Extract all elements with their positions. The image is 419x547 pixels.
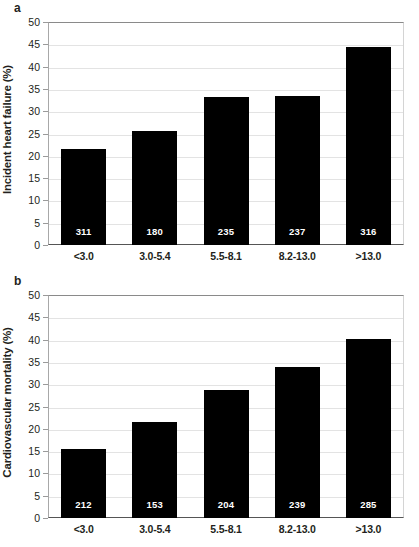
y-axis-tick-label: 25 — [6, 129, 40, 139]
bar: 235 — [204, 97, 249, 245]
bar-count-label: 316 — [346, 226, 391, 237]
y-axis-tick-label: 15 — [6, 173, 40, 183]
x-axis-category-label: >13.0 — [333, 250, 403, 262]
bar-count-label: 237 — [275, 226, 320, 237]
x-axis-category-label: 3.0-5.4 — [120, 523, 190, 535]
y-axis-tick-label: 50 — [6, 17, 40, 27]
y-axis-tick-mark — [43, 245, 48, 246]
y-axis-tick-label: 30 — [6, 106, 40, 116]
bar-count-label: 180 — [132, 226, 177, 237]
bar: 239 — [275, 367, 320, 518]
y-axis-tick-label: 10 — [6, 468, 40, 478]
bar: 237 — [275, 96, 320, 245]
bar-count-label: 235 — [204, 226, 249, 237]
bar-series-a: 311180235237316 — [48, 22, 404, 245]
bar: 212 — [61, 449, 106, 518]
bar: 204 — [204, 390, 249, 518]
x-axis-labels-a: <3.03.0-5.45.5-8.18.2-13.0>13.0 — [48, 250, 404, 268]
y-axis-tick-label: 50 — [6, 290, 40, 300]
chart-panel-a: a Incident heart failure (%) 05101520253… — [0, 0, 419, 273]
y-axis-tick-label: 45 — [6, 312, 40, 322]
y-axis-tick-label: 15 — [6, 446, 40, 456]
bar: 311 — [61, 149, 106, 245]
x-axis-labels-b: <3.03.0-5.45.5-8.18.2-13.0>13.0 — [48, 523, 404, 541]
y-axis-tick-label: 30 — [6, 379, 40, 389]
bar-count-label: 285 — [346, 499, 391, 510]
x-axis-category-label: 5.5-8.1 — [191, 523, 261, 535]
x-axis-category-label: >13.0 — [333, 523, 403, 535]
y-axis-tick-label: 35 — [6, 357, 40, 367]
y-axis-tick-label: 35 — [6, 84, 40, 94]
bar: 316 — [346, 47, 391, 245]
x-axis-category-label: 5.5-8.1 — [191, 250, 261, 262]
bar-count-label: 212 — [61, 499, 106, 510]
y-axis-tick-label: 10 — [6, 195, 40, 205]
x-axis-category-label: 8.2-13.0 — [262, 250, 332, 262]
y-axis-tick-label: 20 — [6, 151, 40, 161]
bar: 285 — [346, 339, 391, 518]
y-axis-tick-label: 25 — [6, 402, 40, 412]
y-axis-tick-label: 40 — [6, 335, 40, 345]
chart-panel-b: b Cardiovascular mortality (%) 051015202… — [0, 273, 419, 546]
bar-count-label: 311 — [61, 226, 106, 237]
x-axis-category-label: <3.0 — [49, 523, 119, 535]
y-axis-tick-label: 20 — [6, 424, 40, 434]
bar-count-label: 204 — [204, 499, 249, 510]
y-axis-tick-mark — [43, 518, 48, 519]
y-axis-tick-label: 5 — [6, 491, 40, 501]
y-axis-tick-label: 0 — [6, 240, 40, 250]
y-axis-tick-label: 0 — [6, 513, 40, 523]
bar: 153 — [132, 422, 177, 518]
bar: 180 — [132, 131, 177, 245]
y-axis-tick-label: 40 — [6, 62, 40, 72]
bar-count-label: 153 — [132, 499, 177, 510]
x-axis-category-label: <3.0 — [49, 250, 119, 262]
bar-series-b: 212153204239285 — [48, 295, 404, 518]
y-axis-tick-label: 45 — [6, 39, 40, 49]
y-axis-tick-label: 5 — [6, 218, 40, 228]
x-axis-category-label: 8.2-13.0 — [262, 523, 332, 535]
x-axis-category-label: 3.0-5.4 — [120, 250, 190, 262]
bar-count-label: 239 — [275, 499, 320, 510]
